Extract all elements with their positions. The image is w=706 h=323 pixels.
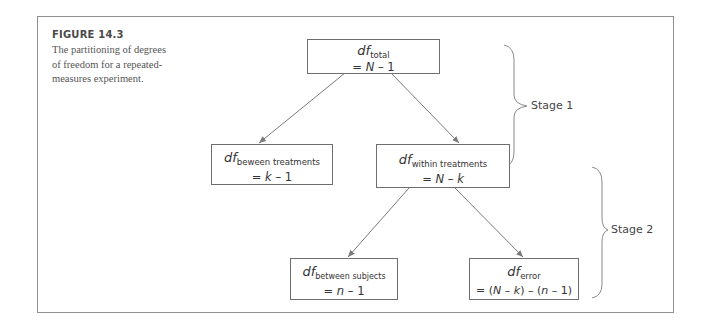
formula-part: – xyxy=(501,284,514,297)
node-df-total: dftotal = N – 1 xyxy=(307,39,440,74)
formula-part: ) – ( xyxy=(520,284,541,297)
node-formula: = n – 1 xyxy=(291,284,397,298)
edge-within-to-error xyxy=(455,188,523,257)
formula-variable: k xyxy=(457,172,464,186)
stage-2-label: Stage 2 xyxy=(611,223,653,236)
df-subscript: total xyxy=(370,50,389,60)
df-subscript: between subjects xyxy=(315,272,385,281)
edge-within-to-between-subjects xyxy=(348,188,409,257)
edge-total-to-within-treatments xyxy=(391,73,459,143)
formula-variable: k xyxy=(265,170,272,184)
df-symbol: df xyxy=(507,264,520,279)
df-subscript: within treatments xyxy=(412,159,488,169)
edge-total-to-between-treatments xyxy=(259,73,345,143)
node-df-between-subjects: dfbetween subjects = n – 1 xyxy=(290,258,398,300)
formula-part: – xyxy=(444,172,457,186)
node-df-error: dferror = (N – k) – (n – 1) xyxy=(469,258,579,300)
node-formula: = k – 1 xyxy=(212,170,332,184)
node-symbol: dfwithin treatments xyxy=(377,152,509,169)
formula-part: – 1 xyxy=(344,284,364,298)
df-symbol: df xyxy=(224,150,237,165)
formula-part: = xyxy=(252,170,265,184)
formula-part: = xyxy=(352,60,365,74)
node-formula: = N – k xyxy=(377,172,509,186)
node-symbol: dftotal xyxy=(308,43,439,60)
formula-part: – 1) xyxy=(548,284,572,297)
node-formula: = N – 1 xyxy=(308,60,439,74)
df-symbol: df xyxy=(399,152,412,167)
formula-part: – 1 xyxy=(272,170,292,184)
node-symbol: dfbeween treatments xyxy=(212,150,332,167)
formula-variable: N xyxy=(366,60,375,74)
stage-1-label: Stage 1 xyxy=(531,99,573,112)
node-formula: = (N – k) – (n – 1) xyxy=(470,284,578,298)
node-df-within-treatments: dfwithin treatments = N – k xyxy=(376,144,510,188)
node-symbol: dferror xyxy=(470,264,578,281)
formula-part: = ( xyxy=(476,284,493,297)
formula-part: = xyxy=(324,284,337,298)
node-symbol: dfbetween subjects xyxy=(291,264,397,281)
df-subscript: error xyxy=(520,271,541,281)
formula-variable: N xyxy=(435,172,444,186)
formula-part: = xyxy=(422,172,435,186)
stage-2-brace xyxy=(592,167,608,298)
formula-part: – 1 xyxy=(374,60,394,74)
df-symbol: df xyxy=(357,43,370,58)
df-subscript: beween treatments xyxy=(237,157,320,167)
node-df-between-treatments: dfbeween treatments = k – 1 xyxy=(211,144,333,185)
formula-variable: N xyxy=(493,284,501,297)
formula-variable: n xyxy=(337,284,344,298)
df-symbol: df xyxy=(302,264,315,279)
